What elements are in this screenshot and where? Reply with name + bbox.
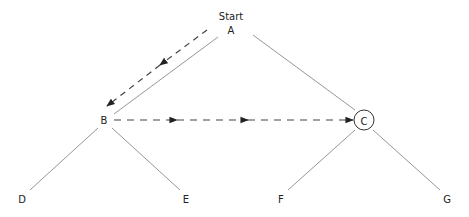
start-label: Start: [219, 11, 243, 22]
traversal-a-b-part1: [160, 30, 207, 65]
node-c-label: C: [361, 116, 368, 127]
node-b-label: B: [101, 115, 108, 126]
edge-b-d: [30, 128, 98, 190]
node-e-label: E: [183, 194, 189, 205]
edge-a-b: [114, 37, 218, 114]
edge-c-g: [373, 130, 440, 190]
edge-a-c: [253, 35, 355, 110]
node-a-label: A: [228, 25, 235, 36]
node-g-label: G: [443, 194, 451, 205]
node-d-label: D: [18, 194, 26, 205]
node-f-label: F: [278, 194, 284, 205]
edge-c-f: [288, 130, 355, 190]
edge-b-e: [112, 128, 180, 190]
